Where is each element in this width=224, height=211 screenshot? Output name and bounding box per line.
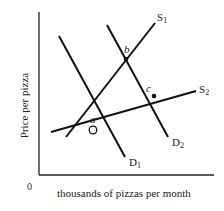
point-label-c: c — [146, 83, 151, 94]
demand-curve-d1 — [59, 36, 125, 157]
label-d1: D1 — [129, 157, 141, 170]
label-d2: D2 — [172, 137, 184, 150]
demand-curve-d2 — [107, 25, 168, 137]
equilibrium-point-c — [152, 94, 157, 99]
label-s1: S1 — [157, 12, 167, 25]
equilibrium-point-b — [124, 57, 129, 62]
supply-curve-s2 — [51, 91, 196, 132]
label-s2: S2 — [199, 84, 209, 97]
point-label-a: a — [90, 114, 96, 125]
supply-curve-s1 — [66, 23, 155, 137]
x-axis-label: thousands of pizzas per month — [57, 188, 191, 199]
y-axis-label: Price per pizza — [19, 61, 30, 151]
point-label-b: b — [124, 44, 130, 55]
equilibrium-point-a — [89, 126, 97, 134]
supply-demand-chart — [0, 0, 224, 211]
origin-label: 0 — [27, 182, 32, 192]
